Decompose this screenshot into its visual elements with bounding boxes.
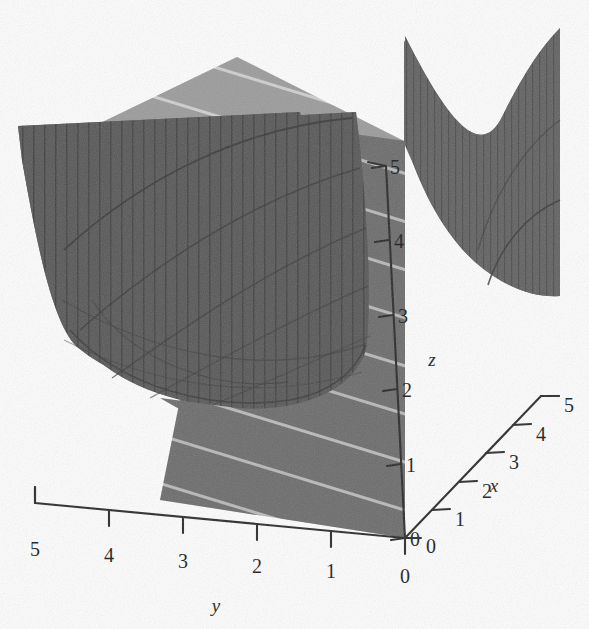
- surface-plot-svg: 0 1 2 3 4 5 z 0 1 2 3 4 5 x: [0, 0, 589, 629]
- paper-grain: [0, 0, 589, 629]
- figure-canvas: 0 1 2 3 4 5 z 0 1 2 3 4 5 x: [0, 0, 589, 629]
